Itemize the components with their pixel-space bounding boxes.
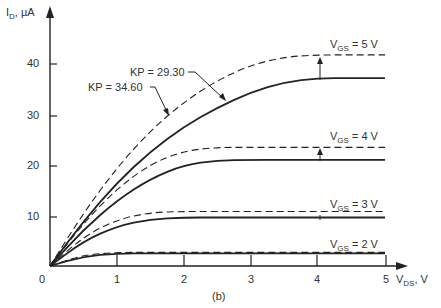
- x-axis-label: VDS, V: [396, 273, 428, 288]
- kp1-arrow-icon: [219, 93, 226, 101]
- x-ticks: [117, 255, 386, 266]
- vgs5-arrow-icon: [317, 57, 323, 64]
- vgs4-label: VGS = 4 V: [330, 130, 378, 145]
- y-axis-arrow-icon: [46, 6, 54, 18]
- kp2-arrow-icon: [163, 108, 169, 116]
- vgs5-label: VGS = 5 V: [330, 38, 378, 53]
- vgs2-label: VGS = 2 V: [330, 238, 378, 253]
- x-axis-arrow-icon: [396, 262, 408, 270]
- x-tick-label-4: 4: [314, 273, 320, 285]
- y-axis-label: ID, µA: [6, 6, 35, 21]
- x-tick-label-1: 1: [114, 273, 120, 285]
- y-tick-label-20: 20: [27, 159, 39, 171]
- kp2-annotation: KP = 34.60: [88, 81, 143, 93]
- figure-caption: (b): [212, 290, 225, 302]
- kp1-annotation: KP = 29.30: [130, 66, 185, 78]
- y-ticks: [50, 64, 57, 217]
- x-tick-label-3: 3: [248, 273, 254, 285]
- origin-label: 0: [39, 273, 45, 285]
- vgs3-label: VGS = 3 V: [330, 198, 378, 213]
- x-tick-label-2: 2: [181, 273, 187, 285]
- y-tick-label-40: 40: [27, 57, 39, 69]
- vgs4-arrow-icon: [317, 148, 323, 155]
- y-tick-label-10: 10: [27, 210, 39, 222]
- x-tick-label-5: 5: [383, 273, 389, 285]
- curve-7: [50, 253, 385, 266]
- y-tick-label-30: 30: [27, 109, 39, 121]
